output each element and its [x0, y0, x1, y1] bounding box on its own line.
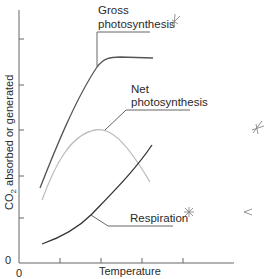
x-ticks	[60, 258, 183, 263]
label-net-photosynthesis: Net photosynthesis	[131, 83, 208, 108]
x-axis-label: Temperature	[99, 265, 161, 277]
y-origin-label: 0	[5, 254, 11, 266]
y-axis-label: CO2 absorbed or generated	[3, 75, 18, 210]
series-net-photosynthesis	[42, 130, 150, 200]
leader-net	[105, 110, 190, 130]
label-respiration: Respiration	[130, 212, 188, 224]
y-ticks	[19, 39, 24, 218]
leader-gross	[97, 32, 150, 66]
chart: 0 0 Temperature CO2 absorbed or generate…	[0, 0, 271, 279]
series-gross-photosynthesis	[40, 57, 153, 188]
label-gross-photosynthesis: Gross photosynthesis	[98, 4, 175, 30]
x-origin-label: 0	[16, 267, 22, 279]
scribble-marks	[170, 14, 264, 217]
